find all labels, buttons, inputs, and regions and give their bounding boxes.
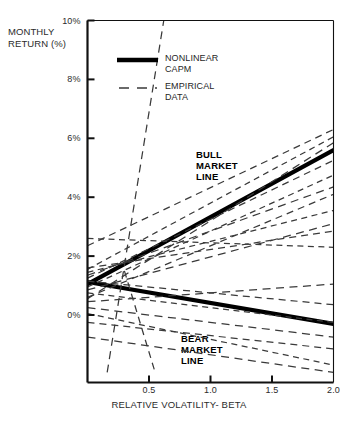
empirical-line [88, 337, 334, 372]
y-axis-tick-label: 6% [55, 133, 81, 143]
chart-figure: MONTHLY RETURN (%) RELATIVE VOLATILITY- … [0, 0, 358, 438]
y-axis-tick-label: 0% [55, 310, 81, 320]
y-axis-tick-label: 4% [55, 192, 81, 202]
empirical-line [88, 293, 334, 322]
plot-area [0, 0, 358, 438]
x-axis-tick-label: 1.0 [196, 385, 226, 395]
x-axis-tick-label: 1.5 [257, 385, 287, 395]
empirical-line [88, 129, 334, 245]
empirical-line [88, 231, 334, 268]
y-axis-tick-label: 8% [55, 74, 81, 84]
empirical-line [88, 143, 334, 299]
empirical-line [88, 194, 334, 297]
y-axis-tick-label: 2% [55, 251, 81, 261]
empirical-line [88, 224, 334, 290]
x-axis-tick-label: 0.5 [134, 385, 164, 395]
x-axis-tick-label: 2.0 [319, 385, 349, 395]
empirical-line [88, 314, 334, 366]
empirical-line [88, 175, 334, 287]
empirical-line [88, 322, 334, 349]
empirical-line [88, 308, 334, 337]
empirical-line [107, 21, 164, 373]
y-axis-tick-label: 10% [55, 16, 81, 26]
